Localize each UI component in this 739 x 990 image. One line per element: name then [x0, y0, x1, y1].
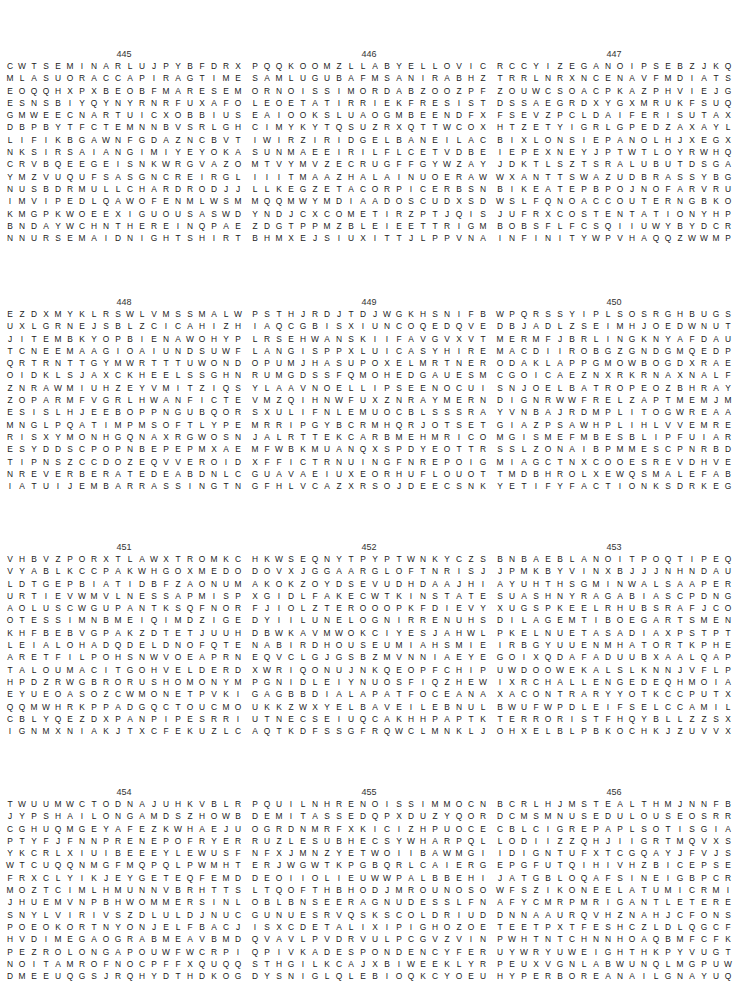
letter-cell: E	[429, 183, 441, 195]
letter-cell: E	[542, 382, 554, 394]
letter-cell: S	[686, 171, 698, 183]
letter-cell: U	[722, 333, 734, 345]
letter-cell: N	[662, 565, 674, 577]
letter-cell: I	[381, 970, 393, 982]
letter-cell: U	[554, 639, 566, 651]
letter-cell: T	[590, 382, 602, 394]
letter-cell: M	[88, 590, 100, 602]
letter-cell: P	[345, 859, 357, 871]
letter-cell: I	[249, 320, 261, 332]
letter-cell: T	[261, 158, 273, 170]
letter-cell: R	[52, 320, 64, 332]
letter-cell: F	[710, 933, 722, 945]
letter-cell: M	[220, 872, 232, 884]
letter-cell: Y	[477, 602, 489, 614]
letter-cell: A	[590, 664, 602, 676]
letter-cell: D	[160, 810, 172, 822]
letter-cell: O	[393, 195, 405, 207]
letter-cell: L	[518, 443, 530, 455]
letter-cell: M	[148, 146, 160, 158]
letter-cell: I	[64, 884, 76, 896]
letter-cell: I	[208, 232, 220, 244]
letter-cell: A	[638, 578, 650, 590]
letter-cell: G	[76, 933, 88, 945]
letter-cell: S	[28, 146, 40, 158]
letter-cell: W	[196, 431, 208, 443]
letter-cell: L	[76, 651, 88, 663]
letter-cell: R	[148, 220, 160, 232]
letter-cell: Q	[662, 553, 674, 565]
letter-cell: R	[650, 171, 662, 183]
letter-cell: Z	[285, 701, 297, 713]
letter-cell: O	[650, 320, 662, 332]
letter-cell: B	[4, 220, 16, 232]
letter-cell: G	[698, 921, 710, 933]
letter-cell: A	[465, 158, 477, 170]
letter-cell: R	[506, 72, 518, 84]
letter-cell: A	[172, 468, 184, 480]
letter-cell: I	[136, 614, 148, 626]
letter-cell: Z	[297, 134, 309, 146]
letter-cell: Y	[686, 220, 698, 232]
letter-cell: M	[722, 394, 734, 406]
letter-cell: J	[674, 847, 686, 859]
letter-cell: F	[261, 847, 273, 859]
letter-cell: R	[100, 109, 112, 121]
letter-cell: D	[88, 713, 100, 725]
letter-cell: S	[722, 909, 734, 921]
letter-cell: A	[369, 701, 381, 713]
letter-cell: I	[76, 872, 88, 884]
letter-cell: R	[64, 183, 76, 195]
letter-cell: C	[477, 60, 489, 72]
letter-cell: U	[88, 183, 100, 195]
letter-cell: A	[393, 85, 405, 97]
letter-cell: P	[453, 713, 465, 725]
letter-cell: U	[261, 369, 273, 381]
letter-cell: S	[357, 639, 369, 651]
letter-cell: D	[441, 195, 453, 207]
letter-cell: L	[88, 195, 100, 207]
letter-cell: E	[40, 345, 52, 357]
letter-cell: G	[88, 602, 100, 614]
letter-cell: R	[441, 220, 453, 232]
letter-cell: A	[554, 357, 566, 369]
letter-cell: R	[602, 382, 614, 394]
letter-cell: S	[506, 195, 518, 207]
letter-cell: P	[357, 946, 369, 958]
letter-cell: U	[453, 468, 465, 480]
letter-cell: R	[309, 308, 321, 320]
letter-cell: Z	[674, 232, 686, 244]
letter-cell: S	[674, 171, 686, 183]
letter-cell: P	[722, 232, 734, 244]
letter-cell: O	[441, 60, 453, 72]
letter-cell: I	[297, 345, 309, 357]
letter-cell: N	[309, 798, 321, 810]
letter-cell: R	[405, 614, 417, 626]
letter-cell: Z	[453, 921, 465, 933]
letter-cell: D	[530, 345, 542, 357]
letter-cell: X	[477, 109, 489, 121]
letter-cell: F	[28, 627, 40, 639]
letter-cell: S	[232, 382, 244, 394]
letter-cell: V	[441, 333, 453, 345]
letter-cell: L	[650, 578, 662, 590]
letter-cell: R	[477, 946, 489, 958]
letter-cell: L	[369, 146, 381, 158]
letter-cell: H	[590, 859, 602, 871]
letter-cell: F	[100, 958, 112, 970]
letter-cell: W	[196, 859, 208, 871]
letter-cell: U	[357, 121, 369, 133]
letter-cell: C	[674, 590, 686, 602]
letter-cell: A	[530, 553, 542, 565]
letter-cell: O	[249, 896, 261, 908]
letter-cell: L	[345, 614, 357, 626]
letter-cell: L	[52, 639, 64, 651]
letter-cell: Q	[662, 676, 674, 688]
letter-cell: N	[172, 345, 184, 357]
letter-cell: I	[285, 676, 297, 688]
letter-cell: B	[530, 468, 542, 480]
letter-cell: H	[626, 859, 638, 871]
letter-cell: J	[100, 970, 112, 982]
letter-cell: M	[249, 443, 261, 455]
letter-cell: R	[554, 72, 566, 84]
